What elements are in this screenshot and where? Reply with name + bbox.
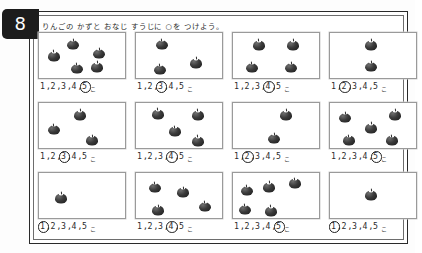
number-choice-1[interactable]: 1 [233,221,240,231]
number-choice-3[interactable]: 3 [157,221,164,231]
number-choice-2[interactable]: 2 [341,221,348,231]
counter-unit-label: こ [284,84,290,93]
number-choice-3[interactable]: 3 [60,81,67,91]
problem-cell: 1,2,3,4,5こ [230,170,327,240]
apple-box [232,172,320,219]
number-choice-4[interactable]: 4 [71,221,78,231]
apple-icon [365,61,377,72]
number-choice-1[interactable]: 1 [136,81,143,91]
number-choice-4[interactable]: 4 [265,151,272,161]
number-choice-4[interactable]: 4 [362,151,369,161]
number-choice-4[interactable]: 4 [71,151,78,161]
number-choice-3[interactable]: 3 [254,81,261,91]
number-choice-4[interactable]: 4 [168,151,175,161]
number-choice-2[interactable]: 2 [147,81,154,91]
number-choice-2[interactable]: 2 [244,221,251,231]
number-choice-2[interactable]: 2 [147,221,154,231]
number-choice-2[interactable]: 2 [50,151,57,161]
number-choice-row[interactable]: 1,2,3,4,5こ [136,151,226,164]
number-choice-1[interactable]: 1 [136,221,143,231]
number-choice-4[interactable]: 4 [168,221,175,231]
number-choice-5[interactable]: 5 [372,81,379,91]
number-choice-3[interactable]: 3 [254,151,261,161]
number-choice-5[interactable]: 5 [275,81,282,91]
counter-unit-label: こ [284,154,290,163]
number-choice-2[interactable]: 2 [50,221,57,231]
number-choice-3[interactable]: 3 [351,221,358,231]
counter-unit-label: こ [187,84,193,93]
number-choice-5[interactable]: 5 [81,151,88,161]
number-choice-5[interactable]: 5 [81,221,88,231]
apple-icon [343,134,355,145]
number-choice-row[interactable]: 1,2,3,4,5こ [136,221,226,234]
number-choice-2[interactable]: 2 [50,81,57,91]
number-choice-2[interactable]: 2 [147,151,154,161]
number-choice-3[interactable]: 3 [254,221,261,231]
apple-icon [177,186,189,197]
number-choice-1[interactable]: 1 [39,81,46,91]
number-choice-row[interactable]: 1,2,3,4,5こ [39,81,129,94]
number-choice-3[interactable]: 3 [60,221,67,231]
number-choice-5[interactable]: 5 [178,151,185,161]
number-choice-1[interactable]: 1 [330,221,337,231]
apple-icon [192,109,204,120]
number-choice-2[interactable]: 2 [244,81,251,91]
number-choice-3[interactable]: 3 [60,151,67,161]
number-choice-1[interactable]: 1 [39,151,46,161]
apple-icon [285,62,297,73]
number-choice-row[interactable]: 1,2,3,4,5こ [330,81,420,94]
apple-icon [154,64,166,75]
number-choice-5[interactable]: 5 [81,81,88,91]
number-choice-1[interactable]: 1 [136,151,143,161]
apple-icon [91,61,103,72]
number-choice-3[interactable]: 3 [157,151,164,161]
number-choice-5[interactable]: 5 [275,151,282,161]
number-choice-row[interactable]: 1,2,3,4,5こ [233,221,323,234]
number-choice-row[interactable]: 1,2,3,4,5こ [330,221,420,234]
apple-icon [149,182,161,193]
problem-cell: 1,2,3,4,5こ [133,30,230,100]
number-choice-4[interactable]: 4 [362,81,369,91]
number-choice-3[interactable]: 3 [351,151,358,161]
apple-stem-icon [370,60,372,63]
number-choice-list: 1,2,3,4,5 [136,81,185,91]
number-choice-4[interactable]: 4 [265,81,272,91]
counter-unit-label: こ [90,84,96,93]
apple-icon [265,205,277,216]
number-choice-1[interactable]: 1 [39,221,46,231]
apple-icon [365,39,377,50]
problem-cell: 1,2,3,4,5こ [36,170,133,240]
number-choice-4[interactable]: 4 [362,221,369,231]
number-choice-5[interactable]: 5 [372,151,379,161]
counter-unit-label: こ [284,224,290,233]
number-choice-row[interactable]: 1,2,3,4,5こ [233,151,323,164]
number-choice-5[interactable]: 5 [178,81,185,91]
apple-stem-icon [268,181,270,184]
number-choice-1[interactable]: 1 [330,151,337,161]
number-choice-4[interactable]: 4 [265,221,272,231]
number-choice-5[interactable]: 5 [372,221,379,231]
number-choice-row[interactable]: 1,2,3,4,5こ [39,221,129,234]
number-choice-2[interactable]: 2 [341,151,348,161]
number-choice-1[interactable]: 1 [233,81,240,91]
apple-icon [152,108,164,119]
number-choice-row[interactable]: 1,2,3,4,5こ [136,81,226,94]
apple-icon [289,177,301,188]
number-choice-5[interactable]: 5 [275,221,282,231]
number-choice-list: 1,2,3,4,5 [39,81,88,91]
number-choice-4[interactable]: 4 [71,81,78,91]
number-choice-row[interactable]: 1,2,3,4,5こ [233,81,323,94]
number-choice-row[interactable]: 1,2,3,4,5こ [330,151,420,164]
number-choice-row[interactable]: 1,2,3,4,5こ [39,151,129,164]
apple-stem-icon [98,47,100,50]
number-choice-3[interactable]: 3 [157,81,164,91]
number-choice-1[interactable]: 1 [233,151,240,161]
number-choice-5[interactable]: 5 [178,221,185,231]
number-choice-1[interactable]: 1 [330,81,337,91]
number-choice-2[interactable]: 2 [244,151,251,161]
number-choice-4[interactable]: 4 [168,81,175,91]
number-choice-list: 1,2,3,4,5 [330,221,379,231]
number-choice-3[interactable]: 3 [351,81,358,91]
apple-box [38,32,126,79]
number-choice-2[interactable]: 2 [341,81,348,91]
